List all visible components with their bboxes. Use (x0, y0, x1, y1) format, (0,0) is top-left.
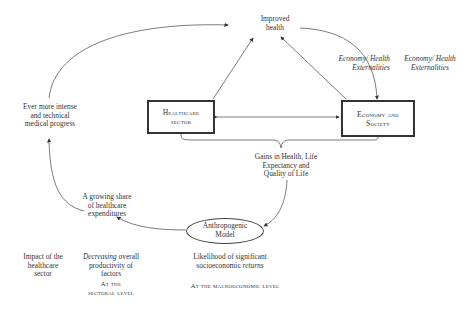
node-growing-share: A growing share of healthcare expenditur… (74, 193, 140, 219)
economy-society-line2: Society (357, 119, 399, 128)
edge-label-externalities-left: Economy/ Health Externalities (300, 55, 390, 72)
externalities-right-line2: Externalities (392, 64, 468, 73)
gains-line3: Quality of Life (238, 170, 334, 179)
economy-society-line1: Economy and (357, 110, 399, 119)
healthcare-sector-line2: sector (163, 117, 200, 126)
footer-sectoral-level: At the sectoral level (74, 279, 148, 297)
decreasing-rest: overall (117, 252, 139, 261)
medical-progress-line3: medical progress (12, 120, 88, 129)
node-medical-progress: Ever more intense and technical medical … (12, 103, 88, 129)
node-gains-health: Gains in Health, Life Expectancy and Qua… (238, 153, 334, 179)
sectoral-level-line2: sectoral level (74, 288, 148, 297)
node-healthcare-sector: Healthcare sector (147, 100, 215, 134)
node-anthropogenic-model: Anthropogenic Model (186, 218, 264, 244)
likelihood-returns-italic: returns (243, 261, 264, 270)
node-economy-society: Economy and Society (341, 100, 415, 137)
improved-health-line2: health (240, 24, 310, 33)
node-improved-health: Improved health (240, 15, 310, 32)
footer-likelihood-returns: Likelihood of significant socioeconomic … (180, 253, 280, 270)
sectoral-level-line1: At the (74, 279, 148, 288)
impact-line3: sector (12, 270, 74, 279)
footer-impact: Impact of the healthcare sector (12, 253, 74, 279)
decreasing-line3: factors (74, 270, 148, 279)
footer-macroeconomic-level: At the macroeconomic level (170, 282, 300, 291)
healthcare-sector-line1: Healthcare (163, 108, 200, 117)
growing-share-line3: expenditures (74, 210, 140, 219)
footer-decreasing-productivity: Decreasing overall productivity of facto… (74, 253, 148, 279)
likelihood-line2-prefix: socioeconomic (196, 261, 242, 270)
anthropogenic-line2: Model (203, 231, 247, 240)
externalities-left-line2: Externalities (300, 64, 390, 73)
decreasing-italic: Decreasing (83, 252, 117, 261)
edge-label-externalities-right: Economy/ Health Externalities (392, 55, 468, 72)
